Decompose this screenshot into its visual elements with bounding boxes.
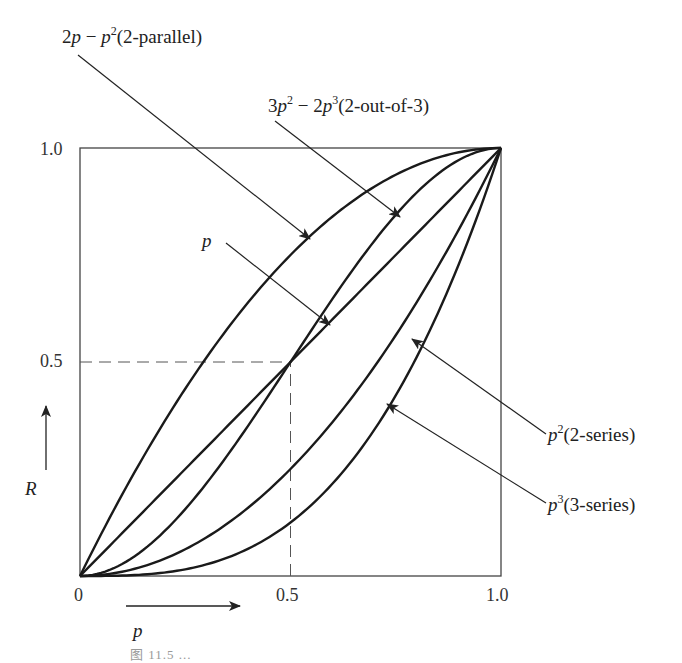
y-tick-1: 1.0	[40, 139, 63, 160]
arrow-linear	[226, 243, 330, 325]
arrow-2-out-of-3	[275, 121, 400, 217]
y-axis-label: R	[25, 478, 37, 500]
x-tick-1: 1.0	[486, 585, 509, 606]
label-3-series: p3(3-series)	[548, 494, 635, 516]
label-2-parallel: 2p − p2(2-parallel)	[62, 26, 202, 48]
arrow-3-series	[387, 404, 546, 503]
figure-caption: 图 11.5 ...	[130, 644, 192, 663]
label-2-out-of-3: 3p2 − 2p3(2-out-of-3)	[268, 95, 429, 117]
x-axis-label: p	[133, 620, 143, 642]
x-tick-0-5: 0.5	[276, 585, 299, 606]
y-tick-0-5: 0.5	[40, 351, 63, 372]
label-2-series: p2(2-series)	[548, 424, 635, 446]
pointer-arrows	[46, 55, 546, 606]
arrow-parallel	[78, 55, 310, 239]
label-linear: p	[202, 230, 212, 252]
x-tick-0: 0	[74, 585, 83, 606]
arrow-2-series	[412, 339, 546, 434]
